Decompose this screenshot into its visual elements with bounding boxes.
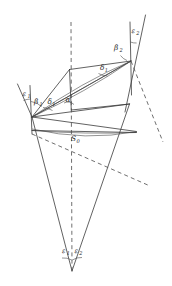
dashed-construction-lines [32, 22, 163, 271]
label-S0-base: S [71, 134, 76, 143]
label-beta2-sub: 2 [118, 47, 122, 53]
connector-mid-right [71, 104, 129, 110]
geometry-figure: ε 1 β 1 δ 1 α δ 1 β 2 [0, 0, 172, 286]
label-eps2-top-sub: 2 [135, 30, 139, 36]
angle-arc-eps2-top [130, 42, 136, 43]
label-eps2-bottom-sub: 2 [78, 250, 82, 256]
label-eps2-bottom: ε 2 [75, 247, 83, 256]
label-beta2-base: β [113, 43, 118, 52]
label-S0: S 0 [71, 134, 81, 144]
lower-triangle [72, 104, 130, 271]
label-eps2-top: ε 2 [132, 27, 140, 36]
label-S0-sub: 0 [77, 138, 81, 144]
label-delta1-left-sub: 1 [52, 101, 55, 107]
label-beta1: β 1 [33, 97, 43, 107]
dashed-left-descender [32, 134, 150, 186]
label-eps2-top-base: ε [132, 27, 136, 35]
angle-arc-eps1-bottom [62, 258, 72, 260]
label-beta2: β 2 [113, 43, 123, 53]
dashed-right-descender [131, 61, 163, 142]
angle-arc-beta2 [121, 56, 128, 61]
label-eps1-left-sub: 1 [28, 93, 31, 99]
label-beta1-base: β [33, 97, 38, 106]
label-eps1-left: ε 1 [23, 90, 31, 99]
geometry-canvas: ε 1 β 1 δ 1 α δ 1 β 2 [0, 0, 172, 286]
figure-labels: ε 1 β 1 δ 1 α δ 1 β 2 [23, 27, 140, 256]
dashed-vertical-axis [71, 22, 72, 271]
angle-arc-eps2-bottom [72, 257, 82, 260]
label-delta1-left: δ 1 [48, 97, 56, 107]
label-eps2-bottom-base: ε [75, 247, 79, 255]
triangle-right-edge [72, 104, 130, 271]
ray-left-to-bottom-apex [32, 117, 72, 271]
label-eps1-bottom-sub: 1 [67, 250, 70, 256]
label-eps1-bottom-base: ε [62, 247, 66, 255]
label-eps1-left-base: ε [23, 90, 27, 98]
label-delta1-right-sub: 1 [105, 67, 108, 73]
label-alpha: α [66, 95, 71, 104]
label-beta1-sub: 1 [39, 101, 42, 107]
left-apex-ray-fan [32, 61, 137, 271]
label-alpha-base: α [66, 95, 71, 104]
